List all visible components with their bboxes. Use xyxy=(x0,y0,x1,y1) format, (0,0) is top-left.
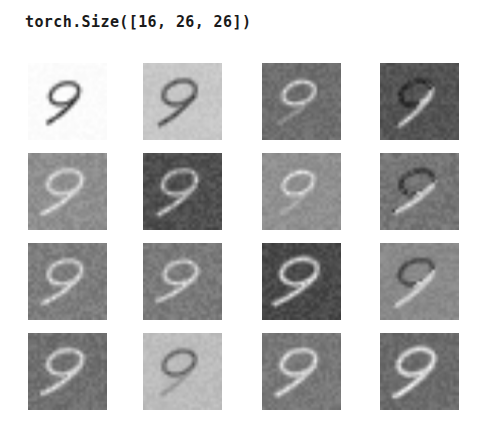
feature-map-tile[interactable] xyxy=(262,63,341,140)
feature-map-tile[interactable] xyxy=(28,243,107,320)
feature-map-tile[interactable] xyxy=(28,63,107,140)
feature-map-tile[interactable] xyxy=(380,333,459,410)
feature-map-tile[interactable] xyxy=(380,153,459,230)
feature-map-tile[interactable] xyxy=(380,63,459,140)
figure-canvas: torch.Size([16, 26, 26]) xyxy=(0,0,489,424)
feature-map-tile[interactable] xyxy=(262,243,341,320)
feature-map-image xyxy=(262,333,341,410)
feature-map-tile[interactable] xyxy=(143,333,222,410)
feature-map-image xyxy=(28,333,107,410)
feature-map-image xyxy=(380,63,459,140)
feature-map-image xyxy=(143,153,222,230)
feature-map-grid xyxy=(28,63,461,410)
feature-map-image xyxy=(143,243,222,320)
feature-map-image xyxy=(28,153,107,230)
feature-map-image xyxy=(143,63,222,140)
feature-map-image xyxy=(28,63,107,140)
feature-map-image xyxy=(380,243,459,320)
feature-map-image xyxy=(262,63,341,140)
feature-map-image xyxy=(262,243,341,320)
feature-map-image xyxy=(380,333,459,410)
feature-map-image xyxy=(380,153,459,230)
feature-map-tile[interactable] xyxy=(143,153,222,230)
feature-map-tile[interactable] xyxy=(262,333,341,410)
feature-map-tile[interactable] xyxy=(262,153,341,230)
feature-map-tile[interactable] xyxy=(143,63,222,140)
feature-map-image xyxy=(262,153,341,230)
feature-map-image xyxy=(28,243,107,320)
feature-map-tile[interactable] xyxy=(143,243,222,320)
feature-map-tile[interactable] xyxy=(28,333,107,410)
page-title: torch.Size([16, 26, 26]) xyxy=(25,12,251,32)
feature-map-image xyxy=(143,333,222,410)
feature-map-tile[interactable] xyxy=(28,153,107,230)
feature-map-tile[interactable] xyxy=(380,243,459,320)
